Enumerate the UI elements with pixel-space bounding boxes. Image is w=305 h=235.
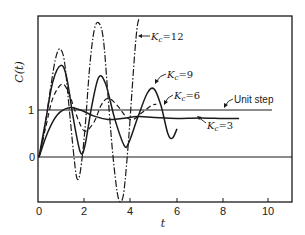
y-tick-label-0: 0 [29,151,35,163]
x-tick-label-10: 10 [262,205,274,217]
x-tick-label-2: 2 [81,205,87,217]
x-axis-label: t [161,217,166,230]
x-tick-label-6: 6 [174,205,180,217]
kc3-label: Kc=3 [206,120,233,133]
y-tick-label-1: 1 [28,104,34,116]
x-tick-label-0: 0 [36,205,42,217]
y-axis-label: C(t) [13,61,26,82]
step-response-chart: 0 2 4 6 8 10 0 1 C(t) t Kc=12 Kc=9 Kc=6 … [0,0,305,235]
x-tick-label-4: 4 [127,205,133,217]
curve-kc-9 [39,65,177,157]
kc9-label: Kc=9 [166,69,193,82]
kc12-label: Kc=12 [150,31,184,44]
kc6-label: Kc=6 [173,90,200,103]
unit-step-label: Unit step [234,94,274,105]
curve-kc-6 [39,84,156,157]
x-tick-label-8: 8 [220,205,226,217]
